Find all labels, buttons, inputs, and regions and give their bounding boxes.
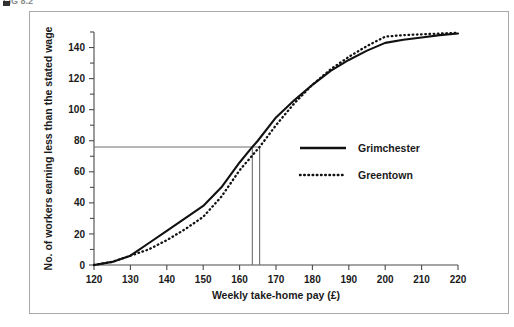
x-tick-label: 190 — [340, 274, 357, 285]
x-tick-label: 200 — [377, 274, 394, 285]
y-axis-title: No. of workers earning less than the sta… — [42, 26, 54, 270]
x-tick-label: 150 — [195, 274, 212, 285]
x-axis-title: Weekly take-home pay (£) — [212, 289, 340, 301]
y-tick-label: 40 — [74, 197, 86, 208]
chart-legend: Grimchester Greentown — [300, 142, 420, 181]
x-tick-label: 210 — [413, 274, 430, 285]
y-tick-label: 100 — [68, 104, 85, 115]
x-tick-label: 120 — [86, 274, 103, 285]
y-tick-label: 20 — [74, 229, 86, 240]
y-tick-label: 140 — [68, 42, 85, 53]
x-tick-label: 130 — [122, 274, 139, 285]
x-tick-label: 140 — [158, 274, 175, 285]
y-tick-label-group: 020406080100120140 — [68, 42, 85, 270]
x-tick-label-group: 120130140150160170180190200210220 — [86, 274, 467, 285]
y-tick-label: 120 — [68, 73, 85, 84]
x-axis-group: 120130140150160170180190200210220 Weekly… — [86, 265, 467, 301]
y-tick-label: 80 — [74, 135, 86, 146]
x-tick-group — [94, 265, 458, 270]
x-tick-label: 160 — [231, 274, 248, 285]
y-axis-group: 020406080100120140 No. of workers earnin… — [42, 26, 94, 270]
legend-label-greentown: Greentown — [358, 169, 413, 181]
cumulative-frequency-chart: 020406080100120140 No. of workers earnin… — [0, 0, 514, 327]
median-construction-lines — [94, 147, 260, 265]
y-tick-label: 0 — [79, 260, 85, 271]
y-tick-label: 60 — [74, 166, 86, 177]
x-tick-label: 180 — [304, 274, 321, 285]
chart-svg: 020406080100120140 No. of workers earnin… — [0, 0, 514, 327]
legend-label-grimchester: Grimchester — [358, 142, 420, 154]
x-tick-label: 220 — [450, 274, 467, 285]
x-tick-label: 170 — [268, 274, 285, 285]
